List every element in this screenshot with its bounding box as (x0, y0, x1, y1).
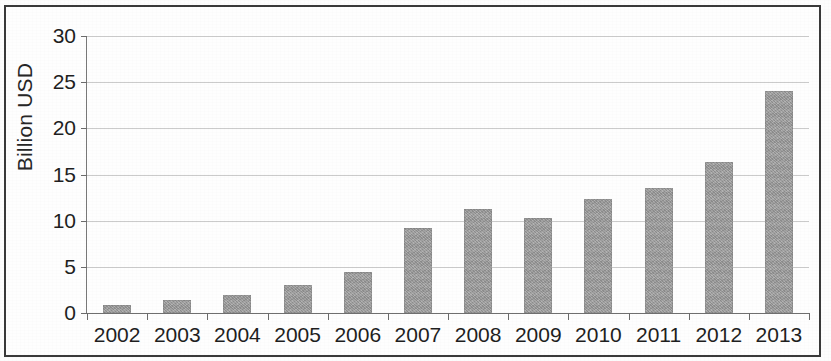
y-axis-tick-mark (81, 267, 87, 268)
bar (284, 285, 312, 313)
x-axis-tick-label: 2005 (274, 324, 321, 345)
x-axis-tick-mark (809, 313, 810, 320)
bar-series (87, 36, 809, 313)
y-axis-tick-label: 20 (36, 117, 76, 138)
x-axis-tick-mark (268, 313, 269, 320)
y-axis-tick-label: 0 (36, 302, 76, 323)
bar (223, 295, 251, 313)
y-axis-tick-label: 5 (36, 256, 76, 277)
y-axis-tick-label: 10 (36, 210, 76, 231)
y-axis-tick-labels: 051015202530 (26, 0, 76, 361)
y-axis-tick-mark (81, 36, 87, 37)
bar (705, 162, 733, 313)
x-axis-tick-mark (749, 313, 750, 320)
y-axis-tick-label: 15 (36, 164, 76, 185)
y-axis-tick-mark (81, 313, 87, 314)
x-axis-tick-mark (388, 313, 389, 320)
y-axis-tick-mark (81, 82, 87, 83)
x-axis-tick-mark (87, 313, 88, 320)
bar (464, 209, 492, 313)
x-axis-tick-label: 2009 (515, 324, 562, 345)
x-axis-tick-label: 2002 (94, 324, 141, 345)
y-axis-tick-mark (81, 221, 87, 222)
x-axis-tick-mark (328, 313, 329, 320)
bar (765, 91, 793, 313)
y-axis-tick-mark (81, 128, 87, 129)
x-axis-tick-mark (629, 313, 630, 320)
x-axis-tick-label: 2013 (756, 324, 803, 345)
x-axis-tick-label: 2007 (395, 324, 442, 345)
bar (344, 272, 372, 313)
x-axis-tick-mark (207, 313, 208, 320)
x-axis-tick-mark (568, 313, 569, 320)
x-axis-tick-label: 2012 (695, 324, 742, 345)
x-axis-tick-label: 2008 (455, 324, 502, 345)
x-axis-tick-mark (147, 313, 148, 320)
plot-area (87, 36, 809, 313)
x-axis-tick-mark (448, 313, 449, 320)
x-axis-tick-label: 2011 (636, 324, 681, 345)
y-axis-tick-mark (81, 175, 87, 176)
bar (404, 228, 432, 313)
x-axis-tick-mark (689, 313, 690, 320)
bar (645, 188, 673, 313)
x-axis-tick-label: 2004 (214, 324, 261, 345)
y-axis-tick-label: 25 (36, 71, 76, 92)
bar (163, 300, 191, 313)
bar (584, 199, 612, 313)
x-axis-tick-mark (508, 313, 509, 320)
y-axis-tick-label: 30 (36, 25, 76, 46)
x-axis-tick-label: 2010 (575, 324, 622, 345)
x-axis-tick-label: 2003 (154, 324, 201, 345)
bar (524, 218, 552, 313)
x-axis-tick-label: 2006 (334, 324, 381, 345)
bar (103, 305, 131, 313)
chart-figure: Billion USD 051015202530 200220032004200… (0, 0, 831, 361)
